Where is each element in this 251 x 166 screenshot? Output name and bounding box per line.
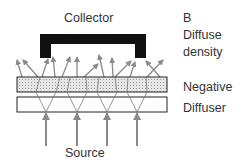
collector-label: Collector <box>64 11 113 25</box>
title-line1: Diffuse <box>183 28 222 42</box>
source-label: Source <box>65 146 105 160</box>
diffuser-label: Diffuser <box>183 101 226 115</box>
source-arrows <box>46 113 137 146</box>
scattered-light-arrows <box>17 55 163 77</box>
collector-shape <box>40 34 146 58</box>
title-line2: density <box>183 45 223 59</box>
negative-label: Negative <box>183 80 232 94</box>
panel-label: B <box>183 11 191 25</box>
